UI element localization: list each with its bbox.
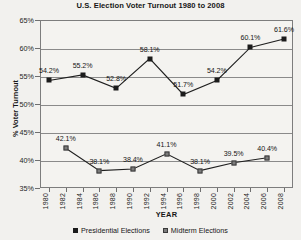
x-axis-tick-mark (133, 188, 134, 192)
chart-legend: Presidential ElectionsMidterm Elections (0, 226, 301, 235)
x-axis-tick-label: 1998 (193, 193, 200, 209)
series-layer: 54.2%55.2%52.8%58.1%51.7%54.2%60.1%61.6%… (40, 20, 293, 188)
x-axis-tick-label: 2004 (243, 193, 250, 209)
x-axis-tick-mark (267, 188, 268, 192)
legend-label: Presidential Elections (81, 226, 150, 235)
x-axis-tick-mark (66, 188, 67, 192)
data-point-marker (47, 78, 52, 83)
x-axis-tick-label: 1986 (92, 193, 99, 209)
data-point-label: 58.1% (140, 46, 160, 54)
x-axis-tick-mark (183, 188, 184, 192)
x-axis-tick-mark (200, 188, 201, 192)
data-point-marker (147, 56, 152, 61)
legend-entry[interactable]: Midterm Elections (163, 226, 228, 235)
x-axis-tick-mark (83, 188, 84, 192)
x-axis-tick-label: 2000 (209, 193, 216, 209)
y-axis-tick-label: 55% (20, 72, 34, 81)
data-point-marker (248, 45, 253, 50)
x-axis-tick-mark (217, 188, 218, 192)
x-axis-tick-label: 1994 (159, 193, 166, 209)
data-point-label: 38.4% (123, 156, 143, 164)
y-axis-tick-labels: 65%60%55%50%45%40%35% (0, 20, 38, 188)
legend-swatch-icon (73, 228, 78, 233)
x-axis-tick-label: 1988 (109, 193, 116, 209)
data-point-marker (164, 151, 169, 156)
data-point-label: 60.1% (240, 34, 260, 42)
data-point-label: 55.2% (73, 62, 93, 70)
data-point-marker (181, 92, 186, 97)
x-axis-tick-label: 1980 (42, 193, 49, 209)
x-axis-tick-mark (250, 188, 251, 192)
data-point-marker (198, 168, 203, 173)
legend-label: Midterm Elections (171, 226, 228, 235)
series-lines (40, 20, 293, 188)
data-point-label: 38.1% (190, 158, 210, 166)
data-point-label: 54.2% (207, 67, 227, 75)
x-axis-tick-mark (150, 188, 151, 192)
y-axis-tick-label: 35% (20, 184, 34, 193)
data-point-label: 52.8% (106, 75, 126, 83)
y-axis-tick-label: 60% (20, 44, 34, 53)
y-axis-tick-label: 50% (20, 100, 34, 109)
x-axis-tick-label: 1992 (142, 193, 149, 209)
x-axis-tick-mark (284, 188, 285, 192)
data-point-marker (214, 78, 219, 83)
data-point-label: 41.1% (157, 141, 177, 149)
y-axis-tick-label: 65% (20, 16, 34, 25)
data-point-marker (265, 155, 270, 160)
x-axis-tick-mark (167, 188, 168, 192)
x-axis-tick-label: 2002 (226, 193, 233, 209)
legend-swatch-icon (163, 228, 168, 233)
x-axis-tick-mark (116, 188, 117, 192)
data-point-marker (231, 160, 236, 165)
data-point-label: 61.6% (274, 26, 294, 34)
x-axis-tick-label: 1990 (125, 193, 132, 209)
data-point-label: 39.5% (224, 150, 244, 158)
data-point-label: 38.1% (89, 158, 109, 166)
x-axis-tick-label: 1996 (176, 193, 183, 209)
data-point-marker (114, 86, 119, 91)
y-axis-tick-label: 45% (20, 128, 34, 137)
x-axis-tick-label: 2008 (277, 193, 284, 209)
x-axis-title: YEAR (40, 210, 293, 219)
data-point-label: 42.1% (56, 135, 76, 143)
y-axis-tick-label: 40% (20, 156, 34, 165)
chart-container: U.S. Election Voter Turnout 1980 to 2008… (0, 0, 301, 240)
chart-title: U.S. Election Voter Turnout 1980 to 2008 (0, 1, 301, 10)
x-axis-tick-mark (49, 188, 50, 192)
data-point-label: 40.4% (257, 145, 277, 153)
data-point-marker (63, 146, 68, 151)
x-axis-tick-label: 2006 (260, 193, 267, 209)
x-axis-tick-mark (234, 188, 235, 192)
data-point-marker (282, 37, 287, 42)
x-axis-tick-label: 1982 (58, 193, 65, 209)
legend-entry[interactable]: Presidential Elections (73, 226, 150, 235)
data-point-marker (97, 168, 102, 173)
x-axis-tick-label: 1984 (75, 193, 82, 209)
data-point-marker (80, 72, 85, 77)
data-point-label: 54.2% (39, 67, 59, 75)
data-point-marker (130, 166, 135, 171)
data-point-label: 51.7% (173, 81, 193, 89)
x-axis-tick-mark (99, 188, 100, 192)
